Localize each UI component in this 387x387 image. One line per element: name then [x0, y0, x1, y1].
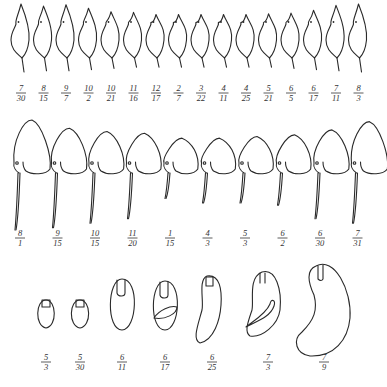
eye-icon [16, 162, 19, 165]
body-outline [89, 132, 124, 174]
date-label-day: 11 [220, 93, 228, 103]
body-outline [314, 130, 349, 174]
specimen-figure: 915 [51, 128, 87, 248]
date-label-day: 1 [18, 238, 22, 248]
date-label-day: 15 [39, 93, 48, 103]
specimen-figure: 73 [246, 272, 280, 372]
specimen-figure: 815 [34, 6, 52, 103]
body-outline [153, 281, 177, 330]
date-label-day: 3 [355, 93, 360, 103]
specimen-plate: 7308159710210211116121727322411425521656… [0, 0, 387, 387]
date-label: 711 [331, 83, 341, 103]
tail-spine [90, 58, 92, 70]
date-label-month: 6 [318, 228, 323, 238]
specimen-figure: 630 [314, 130, 349, 248]
body-outline [11, 4, 29, 58]
specimen-figure: 53 [239, 137, 274, 249]
date-label-day: 2 [280, 238, 285, 248]
specimen-figure: 711 [326, 5, 344, 103]
date-label-day: 22 [197, 93, 206, 103]
date-label-day: 16 [129, 93, 138, 103]
body-outline [71, 300, 88, 328]
date-label-day: 31 [352, 238, 362, 248]
tail-spine [67, 58, 69, 71]
date-label: 1120 [128, 228, 138, 248]
date-label-month: 4 [244, 83, 249, 93]
row-1-helmeted-forms: 7308159710210211116121727322411425521656… [11, 4, 367, 103]
date-label-month: 11 [130, 83, 138, 93]
eye-icon [198, 21, 200, 23]
specimen-figure: 62 [276, 135, 311, 248]
specimen-figure: 43 [201, 138, 235, 248]
tail-spine [135, 58, 137, 67]
body-outline [214, 15, 232, 59]
date-label-month: 5 [78, 352, 82, 362]
body-outline [239, 137, 274, 174]
date-label: 27 [174, 83, 184, 103]
date-label-month: 7 [334, 83, 339, 93]
eye-icon [203, 162, 206, 165]
specimen-figure: 617 [153, 281, 177, 372]
body-outline [191, 15, 209, 59]
date-label: 102 [84, 83, 94, 103]
eye-icon [278, 162, 281, 165]
tail-spine [247, 58, 249, 67]
date-label-month: 5 [266, 83, 270, 93]
eye-icon [85, 21, 87, 23]
date-label-month: 6 [289, 83, 294, 93]
date-label-month: 2 [176, 83, 181, 93]
eye-icon [128, 162, 131, 165]
eye-icon [130, 21, 132, 23]
specimen-figure: 102 [79, 8, 97, 103]
notch [160, 282, 168, 298]
eye-icon [288, 21, 290, 23]
specimen-figure: 322 [191, 15, 209, 104]
date-label-month: 8 [41, 83, 46, 93]
specimen-figure: 81 [14, 120, 50, 248]
tail-spine [337, 58, 339, 71]
date-label-month: 6 [210, 352, 215, 362]
date-label-month: 7 [266, 352, 271, 362]
date-label: 1217 [151, 83, 161, 103]
specimen-figure: 617 [304, 10, 322, 103]
date-label-month: 6 [311, 83, 316, 93]
date-label: 411 [219, 83, 229, 103]
date-label-day: 9 [322, 362, 327, 372]
date-label-day: 17 [161, 362, 170, 372]
body-outline [124, 12, 142, 58]
eye-icon [166, 162, 169, 165]
eye-icon [316, 162, 319, 165]
specimen-figure: 53 [38, 300, 55, 372]
specimen-figure: 1021 [101, 12, 119, 103]
date-label: 915 [53, 228, 63, 248]
tail-spine [202, 58, 204, 67]
date-label: 81 [15, 228, 25, 248]
date-label: 97 [61, 83, 71, 103]
specimen-figure: 521 [259, 14, 277, 103]
body-outline [169, 15, 187, 59]
date-label: 625 [207, 352, 217, 372]
date-label-month: 12 [152, 83, 161, 93]
body-outline [14, 120, 50, 174]
body-outline [351, 122, 387, 174]
date-label: 53 [240, 228, 250, 248]
body-outline [126, 133, 161, 174]
body-outline [349, 4, 367, 58]
date-label-month: 11 [129, 228, 137, 238]
body-outline [101, 12, 119, 58]
tail-spine [157, 58, 159, 67]
row-3-ovoid-forms: 535306116176257379 [38, 264, 350, 372]
tail-spine [315, 58, 317, 70]
eye-icon [153, 21, 155, 23]
body-outline [304, 10, 322, 58]
eye-icon [91, 162, 94, 165]
eye-icon [63, 21, 65, 23]
specimen-figure: 1015 [89, 132, 124, 248]
date-label-month: 10 [91, 228, 100, 238]
date-label: 1021 [106, 83, 116, 103]
date-label-month: 5 [44, 352, 48, 362]
date-label-day: 30 [75, 362, 85, 372]
date-label-day: 3 [265, 362, 270, 372]
date-label-month: 9 [55, 228, 60, 238]
row-2-spined-forms: 8191510151120115435362630731 [14, 120, 387, 248]
